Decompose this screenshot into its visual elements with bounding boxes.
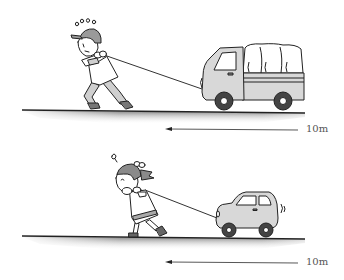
distance-arrow-2 bbox=[165, 260, 298, 264]
car bbox=[216, 192, 285, 237]
distance-label-2: 10m bbox=[306, 256, 328, 267]
scene-man-pulling-truck: 10m bbox=[0, 0, 344, 140]
sweat-drops-icon bbox=[75, 19, 95, 26]
scene-2-illustration bbox=[0, 140, 344, 280]
rope bbox=[104, 55, 202, 89]
scene-girl-pulling-car: 10m bbox=[0, 140, 344, 280]
truck bbox=[201, 44, 305, 110]
distance-arrow-1 bbox=[165, 127, 298, 131]
man-figure bbox=[71, 19, 133, 109]
distance-label-1: 10m bbox=[306, 123, 328, 134]
sweat-drop-icon bbox=[112, 154, 116, 159]
scene-1-illustration bbox=[0, 0, 344, 140]
